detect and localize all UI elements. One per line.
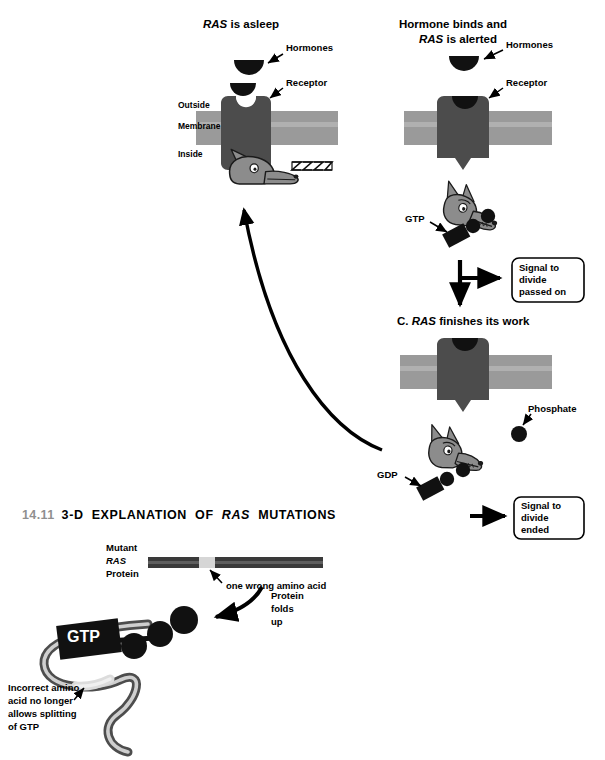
- hormone-near-receptor-asleep: [230, 83, 256, 96]
- panel-title-alerted-line1: Hormone binds and: [399, 18, 507, 31]
- label-gdp: GDP: [377, 470, 398, 481]
- note-folds-up-line1: Protein: [271, 591, 304, 602]
- panel-title-asleep: RAS is asleep: [203, 18, 279, 31]
- label-phosphate: Phosphate: [528, 404, 577, 415]
- note-folds-up-line3: up: [271, 617, 283, 628]
- flow-arrow-divide-passed: [458, 260, 500, 305]
- hormone-free-asleep: [234, 60, 264, 75]
- note-incorrect-line3: allows splitting: [8, 709, 77, 720]
- figure-number: 14.11: [22, 508, 55, 522]
- hormone-free-alerted: [449, 56, 479, 71]
- note-incorrect-line1: Incorrect amino: [8, 683, 79, 694]
- note-incorrect-line4: of GTP: [8, 722, 39, 733]
- panel-title-finishes-prefix: C.: [397, 315, 412, 327]
- panel-title-alerted-italic: RAS: [419, 33, 443, 45]
- panel-title-finishes-rest: finishes its work: [436, 315, 529, 327]
- callout-passed-on-line2: divide: [519, 275, 546, 286]
- label-receptor-alerted: Receptor: [506, 78, 547, 89]
- recycle-curve-arrow: [244, 210, 382, 450]
- callout-passed-on-line1: Signal to: [519, 263, 559, 274]
- label-hormones-alerted: Hormones: [506, 40, 553, 51]
- label-gtp-alerted: GTP: [405, 214, 425, 225]
- panel-title-finishes: C. RAS finishes its work: [397, 315, 529, 328]
- gtp-box-label: GTP: [67, 628, 100, 646]
- figure-title-part3: MUTATIONS: [250, 508, 336, 522]
- note-incorrect-line2: acid no longer: [8, 696, 73, 707]
- panel-title-finishes-italic: RAS: [412, 315, 436, 327]
- note-folds-up-line2: folds: [271, 604, 294, 615]
- gdp-chain: [416, 463, 470, 501]
- label-receptor-asleep: Receptor: [286, 78, 327, 89]
- mutant-protein-label-line2: RAS: [106, 556, 126, 567]
- figure-title-ras: RAS: [222, 508, 250, 522]
- figure-title: 14.113-D EXPLANATION OF RAS MUTATIONS: [22, 508, 336, 522]
- callout-passed-on-line3: passed on: [519, 287, 566, 298]
- label-inside: Inside: [178, 150, 203, 160]
- panel-title-asleep-rest: is asleep: [227, 18, 279, 30]
- callout-ended-line3: ended: [521, 525, 549, 536]
- panel-title-alerted-rest: is alerted: [443, 33, 497, 45]
- label-membrane: Membrane: [178, 122, 221, 132]
- mutant-protein-bar: [148, 557, 323, 568]
- mutant-protein-label-line1: Mutant: [106, 543, 137, 554]
- phosphate-dot: [511, 426, 527, 442]
- mutant-protein-label-line3: Protein: [106, 569, 139, 580]
- label-outside: Outside: [178, 101, 210, 111]
- callout-ended-line2: divide: [521, 513, 548, 524]
- panel-title-alerted-line2: RAS is alerted: [419, 33, 497, 46]
- figure-title-part1: 3-D EXPLANATION OF: [62, 508, 222, 522]
- wrong-amino-acid-segment: [199, 557, 215, 568]
- callout-ended-line1: Signal to: [521, 501, 561, 512]
- panel-title-asleep-italic: RAS: [203, 18, 227, 30]
- label-hormones-asleep: Hormones: [286, 43, 333, 54]
